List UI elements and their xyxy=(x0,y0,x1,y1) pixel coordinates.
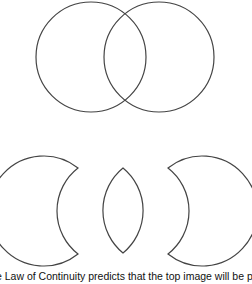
continuity-diagram xyxy=(0,0,252,284)
left-crescent xyxy=(0,156,78,266)
top-left-circle xyxy=(36,2,146,112)
right-crescent xyxy=(168,156,252,266)
caption-text: e Law of Continuity predicts that the to… xyxy=(0,270,252,282)
top-right-circle xyxy=(104,2,214,112)
lens-shape xyxy=(103,168,143,253)
